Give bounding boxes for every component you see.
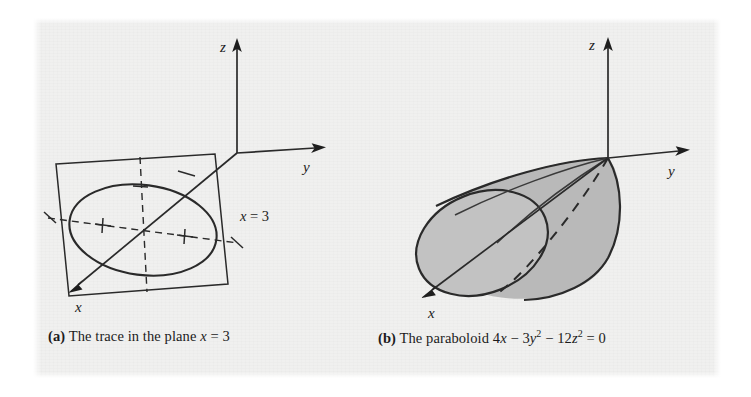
panel-b-paraboloid-surface — [400, 158, 620, 315]
caption-b-tag: (b) — [378, 330, 396, 346]
caption-b-minus-two: − 12 — [541, 330, 571, 346]
panel-b-x-axis-label: x — [427, 305, 435, 321]
panel-b-z-axis-label: z — [588, 37, 595, 53]
caption-b: (b) The paraboloid 4x − 3y2 − 12z2 = 0 — [378, 328, 606, 347]
caption-a: (a) The trace in the plane x = 3 — [48, 328, 230, 345]
caption-a-text-after: = 3 — [207, 328, 230, 344]
caption-b-equals: = 0 — [583, 330, 606, 346]
figure-root: z y x — [0, 0, 751, 397]
caption-b-minus-one: − 3 — [507, 330, 530, 346]
caption-a-tag: (a) — [48, 328, 65, 344]
panel-b-z-axis: z — [588, 37, 613, 158]
caption-a-text-before: The trace in the plane — [65, 328, 200, 344]
panel-b-x-axis-arrowhead — [421, 286, 436, 298]
panel-b-y-axis: y — [608, 146, 690, 179]
caption-b-text-before: The paraboloid 4 — [396, 330, 500, 346]
panel-b-y-axis-label: y — [666, 163, 675, 179]
